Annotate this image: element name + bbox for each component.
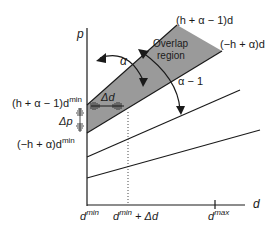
delta-p-indicator bbox=[76, 108, 84, 132]
x-tick-dmax: dmax bbox=[208, 208, 230, 222]
delta-d-label: Δd bbox=[100, 91, 115, 103]
overlap-label-line2: region bbox=[157, 50, 185, 61]
lower-intercept-label: (−h + α)dmin bbox=[17, 136, 75, 150]
upper-line-label: (h + α − 1)d bbox=[176, 14, 233, 26]
lower-line-label: (−h + α)d bbox=[220, 38, 265, 50]
overlap-region-diagram: p d (h + α − 1)d (−h + α)d Overlap regio… bbox=[0, 0, 278, 225]
arrowhead-left-icon bbox=[96, 53, 106, 63]
alpha-minus-one-label: α − 1 bbox=[178, 75, 203, 87]
x-tick-dmin-plus-delta: dmin + Δd bbox=[113, 208, 159, 222]
upper-intercept-label: (h + α − 1)dmin bbox=[12, 95, 82, 109]
alpha-label: α bbox=[120, 54, 128, 68]
overlap-label-line1: Overlap bbox=[153, 38, 188, 49]
line-4 bbox=[87, 130, 260, 178]
delta-p-label: Δp bbox=[58, 115, 73, 127]
x-axis-label: d bbox=[253, 197, 260, 211]
arrowhead-down-2-icon bbox=[176, 106, 185, 115]
x-tick-dmin: dmin bbox=[80, 208, 100, 222]
y-axis-label: p bbox=[76, 27, 84, 41]
